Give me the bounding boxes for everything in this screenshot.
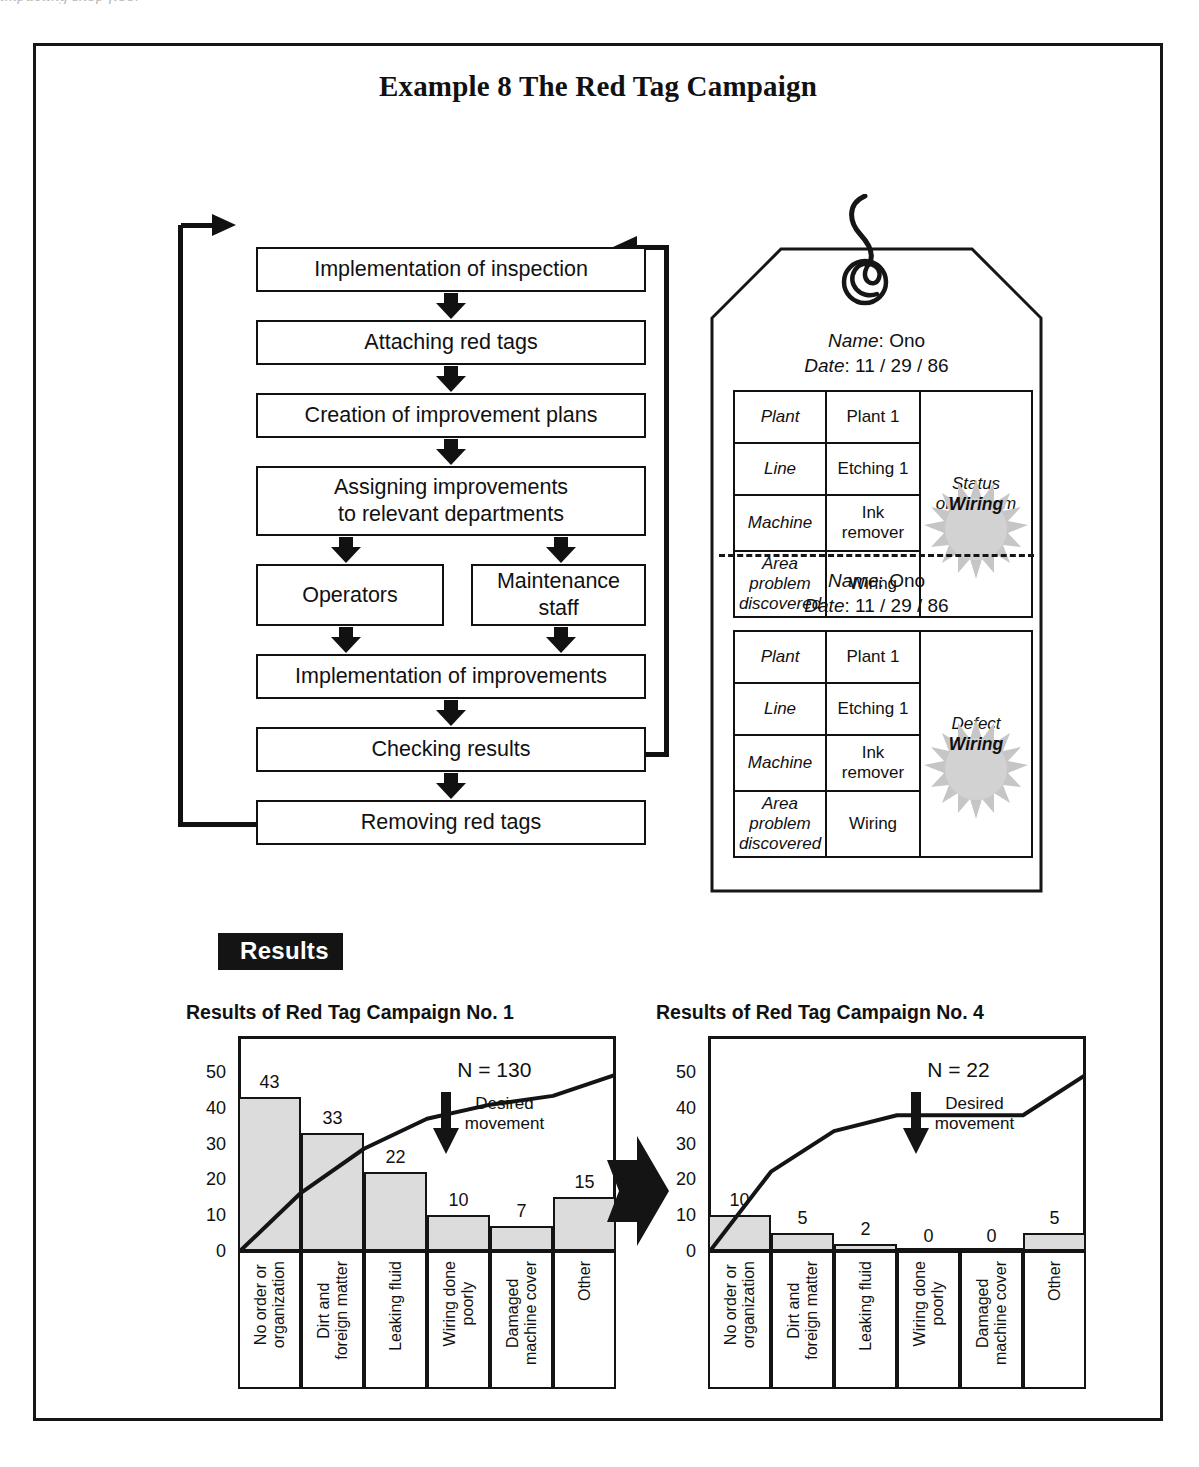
tag-name-label: Name bbox=[828, 330, 879, 351]
chart-x-label-cell: Wiring done poorly bbox=[427, 1251, 490, 1389]
tag-name-label: Name bbox=[828, 570, 879, 591]
red-tag-flowchart: Implementation of inspection Attaching r… bbox=[214, 201, 684, 861]
page-frame: Example 8 The Red Tag Campaign Implement… bbox=[33, 43, 1163, 1421]
tag-card-2-date-line: Date: 11 / 29 / 86 bbox=[709, 593, 1044, 618]
y-tick-label: 40 bbox=[206, 1097, 226, 1118]
chart-x-tick-label: Other bbox=[1046, 1261, 1064, 1301]
flow-step-assigning-improvements[interactable]: Assigning improvements to relevant depar… bbox=[256, 466, 646, 536]
y-tick-label: 0 bbox=[216, 1241, 226, 1262]
flow-step-label: Attaching red tags bbox=[364, 329, 537, 355]
tag-row-value: Wiring bbox=[826, 791, 920, 857]
chart-x-tick-label: No order or organization bbox=[252, 1261, 288, 1348]
flow-arrow-6 bbox=[436, 700, 466, 726]
chart-cumulative-curve bbox=[238, 1036, 616, 1251]
flow-step-label: Removing red tags bbox=[361, 809, 541, 835]
flow-arrow-3 bbox=[436, 439, 466, 465]
chart-x-label-cell: Leaking fluid bbox=[364, 1251, 427, 1389]
y-tick-label: 50 bbox=[676, 1061, 696, 1082]
chart-x-label-cell: Dirt and foreign matter bbox=[771, 1251, 834, 1389]
flow-arrow-4-right bbox=[546, 537, 576, 563]
chart-x-tick-label: Damaged machine cover bbox=[504, 1261, 540, 1365]
chart-plot-area: 1052005N = 22Desired movementNo order or… bbox=[708, 1036, 1086, 1389]
tag-status-cell: Defect status Wiring bbox=[920, 631, 1032, 857]
chart-x-tick-label: Wiring done poorly bbox=[441, 1261, 477, 1346]
flow-step-label: Implementation of inspection bbox=[314, 256, 588, 282]
flow-step-removing-red-tags[interactable]: Removing red tags bbox=[256, 800, 646, 845]
y-tick-label: 30 bbox=[206, 1133, 226, 1154]
flow-arrow-5-left bbox=[331, 627, 361, 653]
flow-step-checking-results[interactable]: Checking results bbox=[256, 727, 646, 772]
chart-title: Results of Red Tag Campaign No. 1 bbox=[186, 1001, 514, 1024]
chart-campaign-1: Results of Red Tag Campaign No. 1 010203… bbox=[186, 1001, 616, 1401]
tag-row-key: Machine bbox=[734, 735, 826, 791]
tag-row-key: Line bbox=[734, 683, 826, 735]
tag-content: Name: Ono Date: 11 / 29 / 86 Plant Plant… bbox=[709, 246, 1044, 894]
chart-title: Results of Red Tag Campaign No. 4 bbox=[656, 1001, 984, 1024]
tag-date-label: Date bbox=[804, 595, 844, 616]
chart-x-tick-label: Damaged machine cover bbox=[974, 1261, 1010, 1365]
down-arrow-icon bbox=[433, 1092, 459, 1158]
flow-arrow-4-left bbox=[331, 537, 361, 563]
tag-row-value: Plant 1 bbox=[826, 631, 920, 683]
flow-arrow-7 bbox=[436, 773, 466, 799]
chart-x-tick-label: Dirt and foreign matter bbox=[785, 1261, 821, 1360]
page-top-text-fragment: impacting shop floor bbox=[0, 0, 420, 4]
chart-x-label-cell: Wiring done poorly bbox=[897, 1251, 960, 1389]
flow-arrow-1 bbox=[436, 293, 466, 319]
tag-card-1: Name: Ono Date: 11 / 29 / 86 Plant Plant… bbox=[709, 328, 1044, 378]
chart-y-axis-ticks: 01020304050 bbox=[656, 1036, 702, 1251]
flow-step-label: Creation of improvement plans bbox=[305, 402, 598, 428]
tag-card-1-date-line: Date: 11 / 29 / 86 bbox=[709, 353, 1044, 378]
red-tag-illustration: Name: Ono Date: 11 / 29 / 86 Plant Plant… bbox=[709, 194, 1044, 894]
tag-row-value: Plant 1 bbox=[826, 391, 920, 443]
y-tick-label: 10 bbox=[676, 1205, 696, 1226]
y-tick-label: 0 bbox=[686, 1241, 696, 1262]
flow-step-operators[interactable]: Operators bbox=[256, 564, 444, 626]
tag-divider-dashed bbox=[719, 554, 1034, 557]
flow-step-attaching-red-tags[interactable]: Attaching red tags bbox=[256, 320, 646, 365]
chart-x-label-cell: No order or organization bbox=[708, 1251, 771, 1389]
results-banner: Results bbox=[218, 933, 343, 970]
chart-x-label-cell: Leaking fluid bbox=[834, 1251, 897, 1389]
y-tick-label: 50 bbox=[206, 1061, 226, 1082]
chart-desired-movement-label: Desired movement bbox=[465, 1094, 544, 1134]
chart-x-label-cell: No order or organization bbox=[238, 1251, 301, 1389]
tag-row-value: Etching 1 bbox=[826, 443, 920, 495]
chart-x-tick-label: Other bbox=[576, 1261, 594, 1301]
tag-name-value: Ono bbox=[889, 570, 925, 591]
chart-x-tick-label: Wiring done poorly bbox=[911, 1261, 947, 1346]
chart-x-label-cell: Other bbox=[553, 1251, 616, 1389]
chart-campaign-4: Results of Red Tag Campaign No. 4 010203… bbox=[656, 1001, 1086, 1401]
flow-step-label: Maintenance staff bbox=[497, 568, 620, 622]
chart-cumulative-curve bbox=[708, 1036, 1086, 1251]
flow-step-maintenance-staff[interactable]: Maintenance staff bbox=[471, 564, 646, 626]
chart-x-tick-label: Leaking fluid bbox=[857, 1261, 875, 1351]
flow-step-label: Checking results bbox=[372, 736, 531, 762]
tag-date-value: 11 / 29 / 86 bbox=[855, 595, 949, 616]
tag-card-2-table: Plant Plant 1 Defect status Wiring bbox=[733, 630, 1033, 858]
flow-step-implementation-of-improvements[interactable]: Implementation of improvements bbox=[256, 654, 646, 699]
tag-status-burst-label: Wiring bbox=[949, 734, 1003, 755]
flow-step-label: Assigning improvements to relevant depar… bbox=[334, 474, 568, 528]
flow-arrow-2 bbox=[436, 366, 466, 392]
tag-row-value: Ink remover bbox=[826, 735, 920, 791]
chart-x-tick-label: Leaking fluid bbox=[387, 1261, 405, 1351]
flow-loop-left-arrowhead bbox=[212, 214, 236, 236]
flow-step-creation-of-improvement-plans[interactable]: Creation of improvement plans bbox=[256, 393, 646, 438]
y-tick-label: 20 bbox=[676, 1169, 696, 1190]
y-tick-label: 30 bbox=[676, 1133, 696, 1154]
tag-card-1-name-line: Name: Ono bbox=[709, 328, 1044, 353]
flow-step-implementation-of-inspection[interactable]: Implementation of inspection bbox=[256, 247, 646, 292]
y-tick-label: 20 bbox=[206, 1169, 226, 1190]
chart-x-tick-label: No order or organization bbox=[722, 1261, 758, 1348]
y-tick-label: 10 bbox=[206, 1205, 226, 1226]
tag-row-key: Plant bbox=[734, 391, 826, 443]
tag-date-value: 11 / 29 / 86 bbox=[855, 355, 949, 376]
y-tick-label: 40 bbox=[676, 1097, 696, 1118]
chart-y-axis-ticks: 01020304050 bbox=[186, 1036, 232, 1251]
tag-row-key: Area problem discovered bbox=[734, 791, 826, 857]
flow-step-label: Operators bbox=[302, 582, 398, 608]
chart-x-tick-label: Dirt and foreign matter bbox=[315, 1261, 351, 1360]
chart-x-label-cell: Damaged machine cover bbox=[960, 1251, 1023, 1389]
chart-n-annotation: N = 22 bbox=[927, 1058, 989, 1082]
